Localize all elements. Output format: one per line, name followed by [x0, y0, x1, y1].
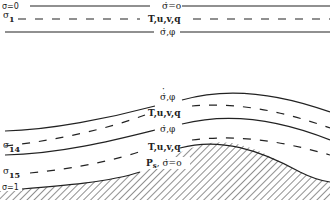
level-upper-dashed-left	[5, 115, 145, 146]
sigma-15-subscript: 15	[9, 170, 20, 180]
sigma-coordinate-diagram: σ=0 σ̇=o σ 1 T,u,v,q σ̇,φ σ̇,φ · T,u,v,q…	[0, 0, 330, 200]
level-14-variables-label: T,u,v,q	[148, 142, 181, 153]
interface-1-label: σ̇,φ	[160, 27, 175, 37]
interface-lower-line-right	[182, 118, 330, 140]
level-14-label-group: σ 14	[3, 140, 21, 154]
top-boundary: σ=0 σ̇=o	[2, 1, 330, 11]
sigma-1-subscript: 1	[9, 14, 15, 24]
level-upper-dashed-right	[192, 105, 330, 128]
level-upper-variables-label: T,u,v,q	[148, 108, 181, 119]
level-14-dashed-left	[30, 150, 145, 173]
sigma-one-label: σ=1	[2, 183, 19, 192]
interface-upper-line-right	[182, 93, 330, 112]
interface-upper-line-left	[5, 106, 155, 131]
level-1: σ 1 T,u,v,q	[3, 10, 330, 25]
sigma-dot-marker: ·	[162, 84, 165, 94]
sigma-dot-zero-top-label: σ̇=o	[162, 1, 181, 11]
level-15-label-group: σ 15	[3, 166, 20, 180]
interface-1: σ̇,φ	[5, 27, 330, 37]
interface-lower-label: σ̇,φ	[160, 124, 175, 134]
level-1-variables-label: T,u,v,q	[148, 14, 181, 25]
terrain-hatching-left	[0, 191, 22, 200]
sigma-14-subscript: 14	[9, 144, 21, 154]
